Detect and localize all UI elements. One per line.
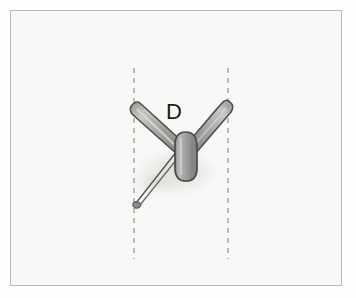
figure-root: D bbox=[0, 0, 356, 298]
part-label-d: D bbox=[166, 101, 182, 123]
central-body bbox=[175, 132, 197, 181]
specimen-illustration bbox=[0, 0, 356, 298]
